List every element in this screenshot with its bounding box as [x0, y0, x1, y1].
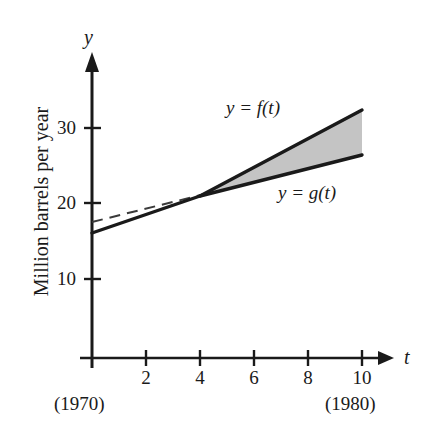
x-tick-label-4: 4 — [185, 368, 215, 387]
x-tick-label-6: 6 — [239, 368, 269, 387]
y-tick-label-30: 30 — [42, 118, 76, 137]
x-tick-label-10: 10 — [347, 368, 377, 387]
oil-consumption-chart: Million barrels per year y t 30 20 10 2 … — [0, 0, 430, 440]
x-tick-label-8: 8 — [293, 368, 323, 387]
y-axis-letter: y — [84, 27, 93, 47]
x-axis-arrow-icon — [378, 351, 394, 365]
start-year-annotation: (1970) — [54, 394, 105, 413]
x-tick-label-2: 2 — [131, 368, 161, 387]
end-year-annotation: (1980) — [325, 394, 376, 413]
y-tick-label-10: 10 — [42, 269, 76, 288]
curve-label-g: y = g(t) — [278, 183, 336, 202]
y-axis-arrow-icon — [85, 52, 99, 72]
dashed-trend-line — [92, 194, 205, 222]
x-axis-letter: t — [404, 347, 410, 367]
curve-f — [92, 110, 362, 233]
curve-label-f: y = f(t) — [226, 98, 280, 117]
y-tick-label-20: 20 — [42, 193, 76, 212]
